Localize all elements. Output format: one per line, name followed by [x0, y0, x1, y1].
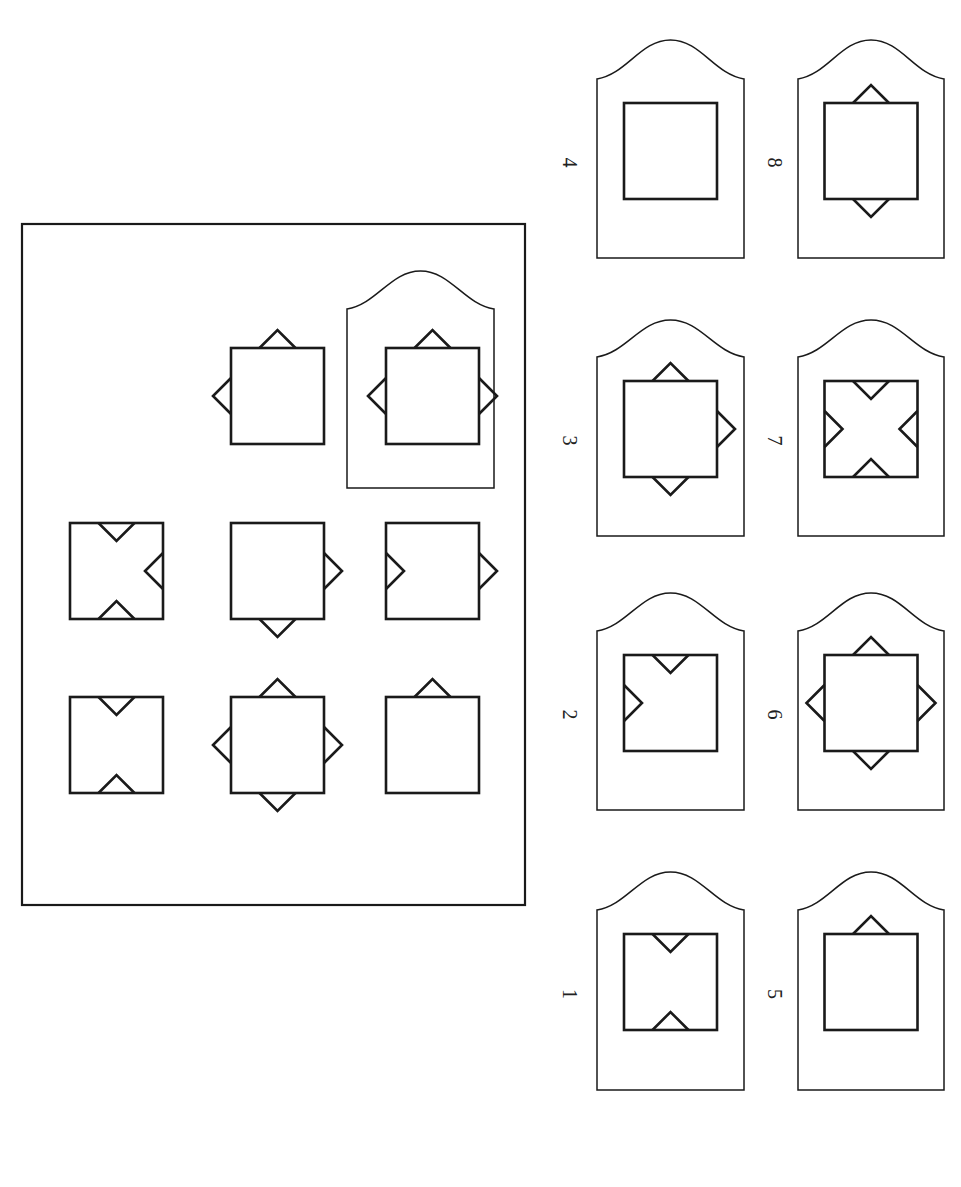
- outer-triangle-top-icon: [853, 637, 889, 655]
- option-label: 1: [559, 989, 581, 999]
- option-2[interactable]: 2: [559, 593, 744, 810]
- option-frame: [798, 593, 944, 810]
- inner-triangle-bottom-icon: [99, 775, 135, 793]
- square-shape: [624, 934, 717, 1030]
- inner-triangle-bottom-icon: [99, 601, 135, 619]
- outer-triangle-top-icon: [853, 85, 889, 103]
- matrix-cell: [368, 330, 497, 444]
- outer-triangle-right-icon: [324, 727, 342, 763]
- matrix-cells: [70, 271, 497, 811]
- option-6[interactable]: 6: [764, 593, 944, 810]
- option-frame: [597, 593, 744, 810]
- outer-triangle-top-icon: [653, 363, 689, 381]
- option-1[interactable]: 1: [559, 872, 744, 1090]
- square-shape: [231, 348, 324, 444]
- matrix-cell: [347, 271, 494, 488]
- square-shape: [386, 697, 479, 793]
- outer-triangle-right-icon: [324, 553, 342, 589]
- outer-triangle-right-icon: [918, 685, 936, 721]
- option-8[interactable]: 8: [764, 40, 944, 258]
- outer-triangle-bottom-icon: [653, 477, 689, 495]
- matrix-cell: [213, 330, 324, 444]
- option-frame: [597, 320, 744, 536]
- option-7[interactable]: 7: [764, 320, 944, 536]
- inner-triangle-right-icon: [900, 411, 918, 447]
- square-shape: [825, 655, 918, 751]
- option-frame: [798, 40, 944, 258]
- inner-triangle-top-icon: [99, 523, 135, 541]
- option-frame: [798, 872, 944, 1090]
- outer-triangle-top-icon: [415, 330, 451, 348]
- inner-triangle-left-icon: [386, 553, 404, 589]
- matrix-cell: [231, 523, 342, 637]
- outer-triangle-bottom-icon: [853, 751, 889, 769]
- inner-triangle-bottom-icon: [653, 1012, 689, 1030]
- square-shape: [825, 381, 918, 477]
- inner-triangle-top-icon: [653, 655, 689, 673]
- option-label: 8: [764, 158, 786, 168]
- inner-triangle-right-icon: [145, 553, 163, 589]
- square-shape: [386, 348, 479, 444]
- option-frame: [597, 40, 744, 258]
- inner-triangle-left-icon: [825, 411, 843, 447]
- option-label: 7: [764, 436, 786, 446]
- inner-triangle-top-icon: [653, 934, 689, 952]
- option-4[interactable]: 4: [559, 40, 744, 258]
- outer-triangle-top-icon: [415, 679, 451, 697]
- option-label: 5: [764, 989, 786, 999]
- answer-options: 12345678: [559, 40, 944, 1090]
- option-label: 6: [764, 710, 786, 720]
- outer-triangle-left-icon: [368, 378, 386, 414]
- outer-triangle-top-icon: [853, 916, 889, 934]
- matrix-cell: [213, 679, 342, 811]
- option-label: 2: [559, 710, 581, 720]
- option-label: 3: [559, 436, 581, 446]
- outer-triangle-bottom-icon: [260, 619, 296, 637]
- outer-triangle-top-icon: [260, 330, 296, 348]
- puzzle-canvas: 12345678: [0, 0, 961, 1187]
- option-frame: [798, 320, 944, 536]
- option-frame: [597, 872, 744, 1090]
- square-shape: [624, 381, 717, 477]
- option-5[interactable]: 5: [764, 872, 944, 1090]
- square-shape: [624, 103, 717, 199]
- option-3[interactable]: 3: [559, 320, 744, 536]
- inner-triangle-bottom-icon: [853, 459, 889, 477]
- missing-piece-frame: [347, 271, 494, 488]
- outer-triangle-bottom-icon: [260, 793, 296, 811]
- square-shape: [386, 523, 479, 619]
- matrix-cell: [386, 679, 479, 793]
- option-label: 4: [559, 158, 581, 168]
- square-shape: [231, 697, 324, 793]
- inner-triangle-left-icon: [624, 685, 642, 721]
- outer-triangle-top-icon: [260, 679, 296, 697]
- square-shape: [624, 655, 717, 751]
- square-shape: [825, 103, 918, 199]
- inner-triangle-top-icon: [853, 381, 889, 399]
- square-shape: [70, 523, 163, 619]
- inner-triangle-top-icon: [99, 697, 135, 715]
- outer-triangle-left-icon: [213, 378, 231, 414]
- outer-triangle-left-icon: [807, 685, 825, 721]
- square-shape: [70, 697, 163, 793]
- outer-triangle-bottom-icon: [853, 199, 889, 217]
- outer-triangle-right-icon: [479, 553, 497, 589]
- square-shape: [231, 523, 324, 619]
- matrix-cell: [70, 697, 163, 793]
- matrix-cell: [70, 523, 163, 619]
- matrix-frame: [22, 224, 525, 905]
- square-shape: [825, 934, 918, 1030]
- matrix-cell: [386, 523, 497, 619]
- outer-triangle-left-icon: [213, 727, 231, 763]
- outer-triangle-right-icon: [717, 411, 735, 447]
